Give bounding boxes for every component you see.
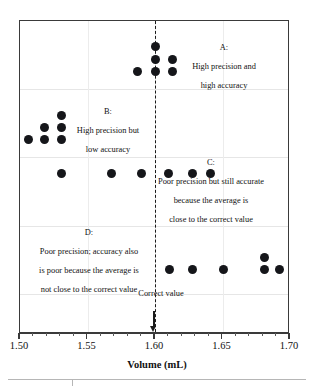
scatter-plot-figure: A: High precision and high accuracy B: H… [0,0,314,390]
page-footer-rule [8,379,306,380]
data-point-d-3 [260,253,269,262]
x-axis-minor-tick-1.56 [100,333,101,336]
x-axis-minor-tick-1.61 [167,333,168,336]
correct-value-arrow-head [150,326,156,332]
data-point-d-4 [260,265,269,274]
x-axis-minor-tick-1.64 [208,333,209,336]
x-axis-tick-label-1.65: 1.65 [212,340,230,351]
x-axis-minor-tick-1.53 [59,333,60,336]
data-point-d-1 [188,265,197,274]
data-point-d-0 [165,265,174,274]
annotation-group-a-line1: A: [160,43,288,53]
x-axis-title: Volume (mL) [0,359,314,370]
x-axis-major-tick-1.65 [221,333,222,339]
correct-value-line1: Correct [138,289,163,298]
x-axis-minor-tick-1.54 [73,333,74,336]
x-axis-minor-tick-1.51 [32,333,33,336]
annotation-group-d-line1: D: [14,228,164,238]
data-point-d-5 [275,265,284,274]
x-axis-minor-tick-1.52 [46,333,47,336]
page-footer-tick [72,379,73,386]
x-axis-tick-label-1.55: 1.55 [77,340,95,351]
x-axis-tick-label-1.60: 1.60 [145,340,163,351]
data-point-c-1 [107,169,116,178]
data-point-a-3 [133,67,142,76]
annotation-group-a-line3: high accuracy [160,81,288,91]
x-axis-major-tick-1.70 [288,333,289,339]
data-point-a-0 [151,42,160,51]
annotation-group-c-line2: Poor precision but still accurate [133,177,289,187]
annotation-group-c-line3: because the average is [133,196,289,206]
x-axis-major-tick-1.55 [86,333,87,339]
data-point-b-5 [24,135,33,144]
annotation-group-a: A: High precision and high accuracy [160,33,288,100]
x-axis-minor-tick-1.58 [127,333,128,336]
annotation-group-c-line1: C: [133,158,289,168]
x-axis-tick-label-1.50: 1.50 [10,340,28,351]
x-axis-minor-tick-1.68 [262,333,263,336]
x-axis-minor-tick-1.57 [113,333,114,336]
data-point-a-1 [151,55,160,64]
correct-value-line2: value [166,289,184,298]
data-point-b-4 [40,135,49,144]
x-axis-major-tick-1.60 [153,333,154,339]
x-axis-minor-tick-1.67 [248,333,249,336]
annotation-group-a-line2: High precision and [160,62,288,72]
x-axis-minor-tick-1.66 [235,333,236,336]
x-axis-tick-label-1.70: 1.70 [280,340,298,351]
x-axis-major-tick-1.50 [18,333,19,339]
data-point-c-0 [57,169,66,178]
x-axis-minor-tick-1.59 [140,333,141,336]
x-axis-minor-tick-1.69 [275,333,276,336]
data-point-b-2 [40,123,49,132]
annotation-group-d-line2: Poor precision; accuracy also [14,247,164,257]
x-axis-minor-tick-1.63 [194,333,195,336]
data-point-a-4 [151,67,160,76]
x-axis-minor-tick-1.62 [181,333,182,336]
annotation-group-b-line2: High precision but [52,126,164,136]
annotation-group-d-line3: is poor because the average is [14,266,164,276]
data-point-d-2 [219,265,228,274]
correct-value-arrow-shaft [153,311,154,327]
annotation-group-b-line1: B: [52,107,164,117]
correct-value-callout: Correct value [122,289,200,299]
